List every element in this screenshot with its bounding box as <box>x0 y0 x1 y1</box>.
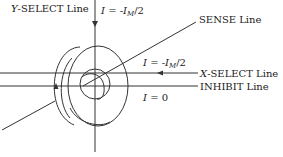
y-current-eq: = - <box>105 5 123 16</box>
x-select-label: X-SELECT Line <box>200 68 278 79</box>
y-select-label: Y-SELECT Line <box>11 3 89 14</box>
x-current-tail: /2 <box>176 57 186 68</box>
inhibit-text: INHIBIT Line <box>200 81 269 92</box>
y-current-arrow-icon <box>92 21 98 27</box>
x-select-text: -SELECT Line <box>207 68 278 79</box>
x-current-label: I = -IM/2 <box>143 57 186 72</box>
x-current-eq: = - <box>147 57 165 68</box>
y-var: Y <box>11 3 18 14</box>
inhibit-current-eq: = 0 <box>147 92 168 103</box>
inhibit-current-label: I = 0 <box>143 92 168 103</box>
sense-text: SENSE Line <box>199 14 261 25</box>
y-current-label: I = -IM/2 <box>101 5 144 20</box>
inhibit-label: INHIBIT Line <box>200 81 269 92</box>
y-select-text: -SELECT Line <box>18 3 89 14</box>
sense-line-return <box>2 101 55 130</box>
y-current-tail: /2 <box>134 5 144 16</box>
sense-label: SENSE Line <box>199 14 261 25</box>
